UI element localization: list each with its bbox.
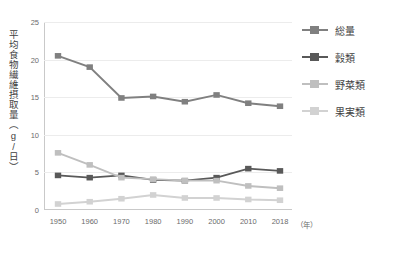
- y-tick-label: 20: [31, 55, 39, 64]
- y-axis-title: 平均食物繊維摂取量（g/日）: [2, 30, 18, 210]
- data-point-marker: [213, 92, 219, 98]
- data-point-marker: [182, 99, 188, 105]
- data-point-marker: [87, 175, 93, 181]
- series-果実類: [55, 192, 283, 207]
- x-tick-label: 1980: [145, 217, 162, 226]
- data-point-marker: [118, 196, 124, 202]
- data-point-marker: [87, 162, 93, 168]
- chart-page: 平均食物繊維摂取量（g/日） 0510152025 19501960197019…: [0, 0, 395, 253]
- data-point-marker: [55, 201, 61, 207]
- data-point-marker: [277, 103, 283, 109]
- data-point-marker: [150, 94, 156, 100]
- data-point-marker: [150, 192, 156, 198]
- chart-legend: 総量穀類野菜類果実類: [302, 18, 392, 126]
- x-tick-label: 2000: [208, 217, 225, 226]
- data-point-marker: [245, 100, 251, 106]
- legend-label: 総量: [335, 23, 355, 38]
- y-tick-label: 5: [35, 168, 39, 177]
- series-line: [58, 56, 280, 106]
- y-tick-label: 0: [35, 206, 39, 215]
- x-tick-label: 1950: [50, 217, 67, 226]
- data-point-marker: [182, 195, 188, 201]
- x-axis-unit-label: （年）: [296, 219, 317, 230]
- x-tick-label: 1970: [113, 217, 130, 226]
- legend-marker: [310, 53, 319, 61]
- plot-area: 0510152025 19501960197019801990200020102…: [44, 22, 292, 210]
- legend-swatch-icon: [302, 51, 328, 63]
- data-point-marker: [213, 195, 219, 201]
- x-tick-label: 2018: [272, 217, 289, 226]
- data-point-marker: [55, 173, 61, 179]
- legend-item-穀類[interactable]: 穀類: [302, 45, 392, 69]
- y-tick-label: 25: [31, 18, 39, 27]
- legend-item-総量[interactable]: 総量: [302, 18, 392, 42]
- data-point-marker: [277, 185, 283, 191]
- data-point-marker: [118, 95, 124, 101]
- y-tick-label: 10: [31, 130, 39, 139]
- legend-item-野菜類[interactable]: 野菜類: [302, 72, 392, 96]
- legend-label: 果実類: [335, 104, 365, 119]
- legend-marker: [310, 80, 319, 88]
- x-tick-label: 2010: [240, 217, 257, 226]
- data-point-marker: [150, 176, 156, 182]
- data-point-marker: [182, 178, 188, 184]
- data-point-marker: [87, 199, 93, 205]
- legend-swatch-icon: [302, 105, 328, 117]
- data-point-marker: [213, 178, 219, 184]
- data-point-marker: [277, 197, 283, 203]
- legend-label: 穀類: [335, 50, 355, 65]
- legend-swatch-icon: [302, 24, 328, 36]
- x-tick-label: 1960: [81, 217, 98, 226]
- data-point-marker: [245, 197, 251, 203]
- data-point-marker: [87, 64, 93, 70]
- data-point-marker: [277, 168, 283, 174]
- data-point-marker: [118, 175, 124, 181]
- x-tick-label: 1990: [177, 217, 194, 226]
- data-point-marker: [245, 166, 251, 172]
- data-point-marker: [55, 150, 61, 156]
- data-point-marker: [55, 53, 61, 59]
- legend-marker: [310, 107, 319, 115]
- y-tick-label: 15: [31, 93, 39, 102]
- legend-swatch-icon: [302, 78, 328, 90]
- legend-label: 野菜類: [335, 77, 365, 92]
- legend-item-果実類[interactable]: 果実類: [302, 99, 392, 123]
- chart-series-svg: [44, 22, 292, 210]
- series-総量: [55, 53, 283, 109]
- data-point-marker: [245, 183, 251, 189]
- legend-marker: [310, 26, 319, 34]
